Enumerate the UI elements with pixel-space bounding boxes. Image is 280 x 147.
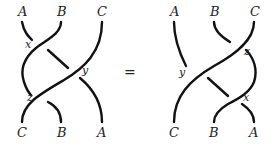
left-braid: A B C x y z C B A <box>17 4 107 140</box>
right-bottom-label-a: A <box>248 125 258 140</box>
right-braid: A B C z y x C B A <box>169 4 260 140</box>
left-crossing-label-z: z <box>26 91 33 104</box>
right-bottom-label-c: C <box>169 125 179 140</box>
right-strand-a-upper <box>174 22 186 66</box>
left-strand-a-middle <box>48 50 68 68</box>
right-top-label-a: A <box>169 4 179 19</box>
right-strand-a-middle <box>208 78 228 96</box>
left-bottom-label-a: A <box>96 125 106 140</box>
left-crossing-label-y: y <box>81 64 89 77</box>
right-top-label-c: C <box>250 4 260 19</box>
left-crossing-label-x: x <box>25 38 32 51</box>
right-strand-b-upper <box>214 22 230 42</box>
left-strand-c <box>22 22 102 122</box>
braid-equation-diagram: A B C x y z C B A = A B C z y <box>0 0 280 147</box>
right-bottom-label-b: B <box>208 125 219 140</box>
left-bottom-label-b: B <box>56 125 67 140</box>
right-strand-c <box>174 22 254 122</box>
right-crossing-label-y: y <box>178 66 186 79</box>
left-strand-a-lower <box>80 78 102 122</box>
left-top-label-c: C <box>97 4 107 19</box>
right-crossing-label-z: z <box>243 45 250 58</box>
right-crossing-label-x: x <box>243 91 250 104</box>
left-top-label-a: A <box>17 4 27 19</box>
right-strand-a-lower <box>242 104 254 122</box>
right-top-label-b: B <box>209 4 220 19</box>
equals-sign: = <box>124 64 136 80</box>
left-top-label-b: B <box>56 4 67 19</box>
left-bottom-label-c: C <box>17 125 27 140</box>
left-strand-b-lower <box>48 102 61 122</box>
